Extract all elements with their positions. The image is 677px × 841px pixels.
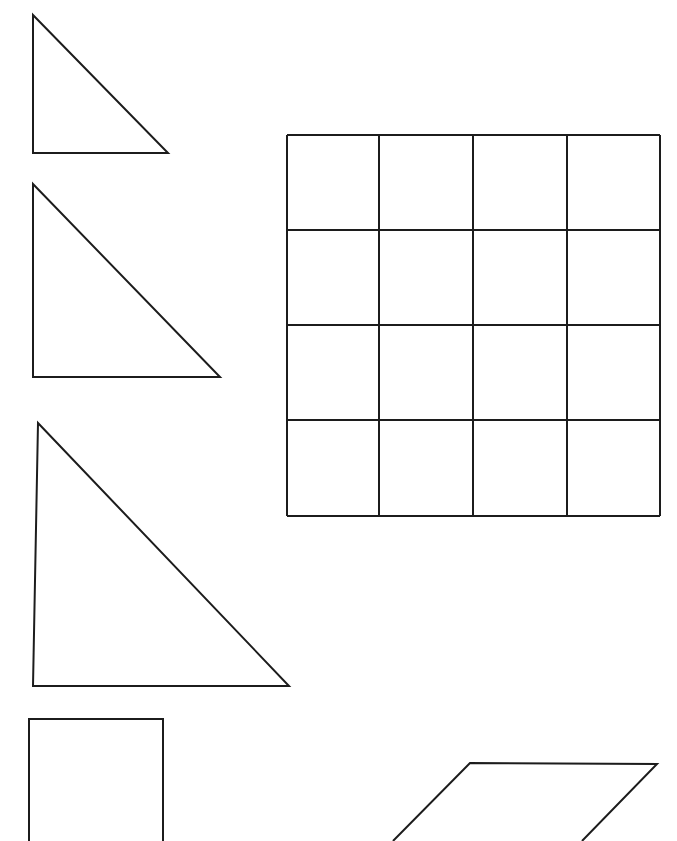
parallelogram-bottom-right [393,763,657,841]
right-triangle-small [33,15,168,153]
rectangle-bottom-left [29,719,163,841]
worksheet-page [0,0,677,841]
right-triangle-medium [33,184,220,377]
shapes-canvas [0,0,677,841]
square-grid [287,135,660,516]
right-triangle-large [33,423,289,686]
